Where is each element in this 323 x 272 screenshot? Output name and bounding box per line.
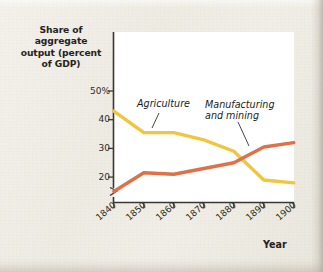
x-axis-ticks xyxy=(114,203,294,209)
series-line-manufacturing-and-mining xyxy=(114,143,294,192)
series-label-manufacturing-and-mining: Manufacturing and mining xyxy=(205,99,274,121)
x-axis-title: Year xyxy=(263,239,287,250)
leader-line-manufacturing xyxy=(238,122,249,146)
leader-line-agriculture xyxy=(152,113,159,128)
chart-figure: Share of aggregate output (percent of GD… xyxy=(0,0,323,272)
y-axis-ticks xyxy=(108,91,114,177)
chart-svg xyxy=(0,0,323,272)
series-label-manufacturing-line-1: Manufacturing xyxy=(205,99,274,110)
series-label-agriculture: Agriculture xyxy=(137,98,190,109)
series-label-manufacturing-line-2: and mining xyxy=(205,110,274,121)
